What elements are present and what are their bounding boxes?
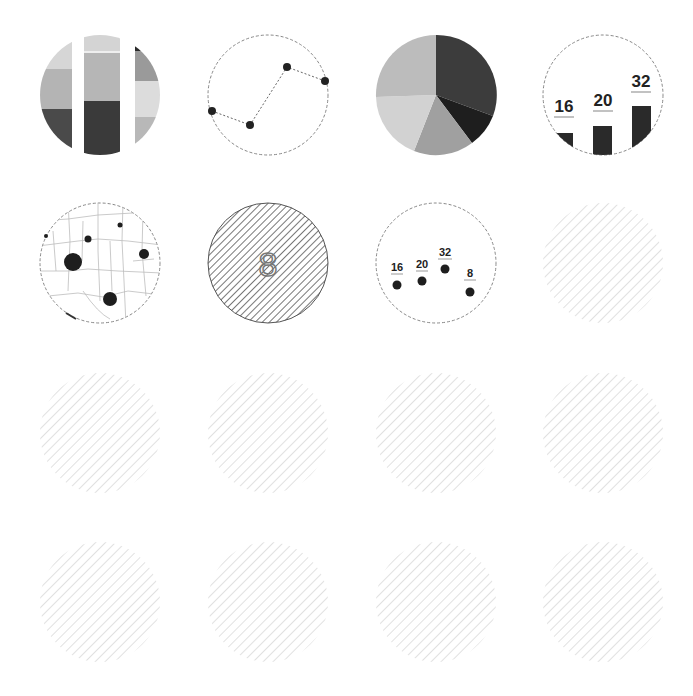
dot-plot-tile[interactable]: 16 20 32 8 [374, 201, 498, 325]
bar-label: 32 [632, 72, 651, 91]
hatched-placeholder-icon [541, 540, 665, 664]
bubble-map-icon [38, 201, 162, 325]
placeholder-tile[interactable] [38, 540, 162, 664]
placeholder-tile[interactable] [541, 371, 665, 495]
hatched-placeholder-icon [374, 540, 498, 664]
hatched-placeholder-icon [38, 371, 162, 495]
hatched-placeholder-icon [206, 540, 330, 664]
dot-label: 20 [416, 258, 428, 270]
hatched-placeholder-icon [206, 371, 330, 495]
placeholder-tile[interactable] [206, 540, 330, 664]
bar-label: 20 [594, 91, 613, 110]
big-number-icon: 8 [206, 201, 330, 325]
stacked-bar-chart-icon [38, 33, 162, 157]
dot-label: 8 [467, 267, 473, 279]
bubble-map-tile[interactable] [38, 201, 162, 325]
placeholder-tile[interactable] [374, 371, 498, 495]
pie-chart-icon [374, 33, 498, 157]
hatched-placeholder-icon [541, 371, 665, 495]
bar-chart-icon: 16 20 32 [541, 33, 665, 157]
line-chart-tile[interactable] [206, 33, 330, 157]
pie-chart-tile[interactable] [374, 33, 498, 157]
hatched-placeholder-icon [374, 371, 498, 495]
placeholder-tile[interactable] [38, 371, 162, 495]
placeholder-tile[interactable] [206, 371, 330, 495]
placeholder-tile[interactable] [374, 540, 498, 664]
dot-plot-icon: 16 20 32 8 [374, 201, 498, 325]
big-number-tile[interactable]: 8 [206, 201, 330, 325]
hatched-placeholder-icon [541, 201, 665, 325]
dot-label: 16 [391, 261, 403, 273]
bar-label: 16 [555, 97, 574, 116]
bar-chart-tile[interactable]: 16 20 32 [541, 33, 665, 157]
dot-label: 32 [439, 246, 451, 258]
placeholder-tile[interactable] [541, 540, 665, 664]
big-number-value: 8 [259, 245, 278, 283]
placeholder-tile[interactable] [541, 201, 665, 325]
line-chart-icon [206, 33, 330, 157]
hatched-placeholder-icon [38, 540, 162, 664]
stacked-bar-chart-tile[interactable] [38, 33, 162, 157]
